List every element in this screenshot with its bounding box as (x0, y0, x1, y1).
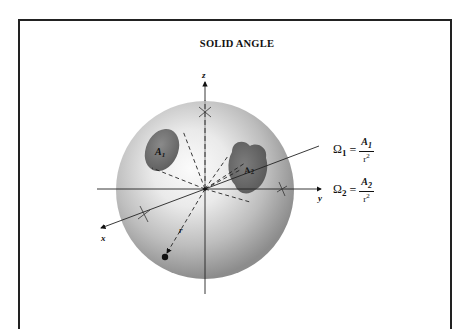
omega2-symbol: Ω2 (333, 182, 346, 198)
omega1-equation: Ω1 = A1 r2 (333, 137, 374, 164)
omega2-equation: Ω2 = A2 r2 (333, 177, 374, 204)
omega1-fraction: A1 r2 (359, 137, 374, 164)
omega2-fraction: A2 r2 (359, 177, 374, 204)
origin-point (203, 187, 207, 191)
y-axis-label: y (317, 193, 323, 203)
r-point (162, 254, 168, 260)
x-axis-label: x (100, 233, 106, 243)
r-label: r (179, 225, 183, 235)
z-axis-label: z (201, 70, 206, 80)
omega1-symbol: Ω1 (333, 142, 346, 158)
